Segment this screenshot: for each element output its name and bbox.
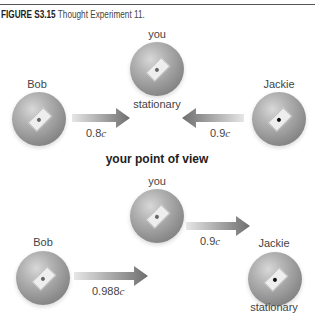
bottom-jackie-state: stationary [250,301,298,313]
bottom-bob-sphere [16,251,70,305]
bottom-you-label: you [148,175,166,187]
bottom-bob-label: Bob [33,236,53,248]
spaceship-icon [268,107,293,132]
top-bob-speed: 0.8c [86,127,106,139]
bottom-bob-arrow-icon [74,266,150,286]
figure-label: FIGURE S3.15 [1,9,56,20]
top-bob-arrow-icon [72,108,132,128]
bottom-bob-speed: 0.988c [92,285,124,297]
top-jackie-sphere [252,92,306,146]
spaceship-icon [264,267,289,292]
top-jackie-speed: 0.9c [210,127,230,139]
figure-title: Thought Experiment 11. [58,9,145,20]
top-bob-sphere [12,92,66,146]
bottom-you-sphere [130,189,184,243]
top-you-state: stationary [133,98,181,110]
bottom-jackie-label: Jackie [258,237,289,249]
spaceship-icon [28,107,53,132]
figure-caption: FIGURE S3.15 Thought Experiment 11. [1,9,145,20]
top-you-sphere [130,42,184,96]
spaceship-icon [32,266,57,291]
spaceship-icon [146,57,171,82]
bottom-you-speed: 0.9c [200,235,220,247]
point-of-view-label: your point of view [106,152,209,166]
top-bob-label: Bob [27,78,47,90]
bottom-you-arrow-icon [186,216,252,236]
top-jackie-label: Jackie [263,78,294,90]
bottom-jackie-sphere [248,252,302,306]
top-you-label: you [148,28,166,40]
spaceship-icon [146,204,171,229]
top-rule [0,4,315,5]
top-jackie-arrow-icon [182,108,246,128]
